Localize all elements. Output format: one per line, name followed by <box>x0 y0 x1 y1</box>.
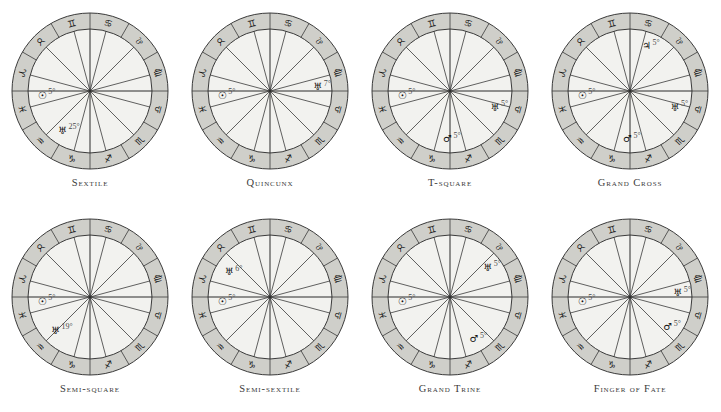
planet-degree-label: 5° <box>48 87 55 96</box>
zodiac-wheel: ♓♈♉♊♋♌♍♎♏♐♑♒☉5°♅5°♂5° <box>367 6 533 176</box>
planet-glyph-uranus: ♅ <box>673 287 682 298</box>
planet-degree-label: 5° <box>228 293 235 302</box>
planet-glyph-mars: ♂ <box>623 133 632 144</box>
aspect-chart-grand-trine: ♓♈♉♊♋♌♍♎♏♐♑♒☉5°♅5°♂5°Grand Trine <box>360 206 540 412</box>
planet-glyph-sun: ☉ <box>398 90 407 101</box>
planet-degree-label: 5° <box>588 293 595 302</box>
zodiac-wheel: ♓♈♉♊♋♌♍♎♏♐♑♒☉5°♅19° <box>7 212 173 382</box>
planet-degree-label: 5° <box>674 319 681 328</box>
aspect-chart-t-square: ♓♈♉♊♋♌♍♎♏♐♑♒☉5°♅5°♂5°T-square <box>360 0 540 206</box>
planet-degree-label: 5° <box>228 87 235 96</box>
planet-degree-label: 5° <box>453 131 460 140</box>
planet-glyph-uranus: ♅ <box>58 125 67 136</box>
zodiac-wheel: ♓♈♉♊♋♌♍♎♏♐♑♒☉5°♅5°♂5° <box>547 212 713 382</box>
planet-glyph-uranus: ♅ <box>483 262 492 273</box>
zodiac-wheel: ♓♈♉♊♋♌♍♎♏♐♑♒☉5°♅5°♂5° <box>367 212 533 382</box>
planet-glyph-mars: ♂ <box>470 333 479 344</box>
planet-glyph-uranus: ♅ <box>51 325 60 336</box>
chart-caption: Semi-sextile <box>239 383 300 394</box>
chart-caption: Finger of Fate <box>594 383 667 394</box>
planet-degree-label: 5° <box>408 293 415 302</box>
chart-caption: Grand Trine <box>419 383 482 394</box>
planet-degree-label: 5° <box>652 38 659 47</box>
zodiac-wheel: ♓♈♉♊♋♌♍♎♏♐♑♒☉5°♅7° <box>187 6 353 176</box>
planet-glyph-sun: ☉ <box>38 296 47 307</box>
planet-degree-label: 5° <box>494 259 501 268</box>
aspect-chart-sextile: ♓♈♉♊♋♌♍♎♏♐♑♒☉5°♅25°Sextile <box>0 0 180 206</box>
planet-degree-label: 5° <box>681 99 688 108</box>
planet-degree-label: 19° <box>61 322 72 331</box>
planet-degree-label: 5° <box>633 131 640 140</box>
aspect-chart-semi-square: ♓♈♉♊♋♌♍♎♏♐♑♒☉5°♅19°Semi-square <box>0 206 180 412</box>
planet-glyph-uranus: ♅ <box>491 102 500 113</box>
chart-caption: Sextile <box>72 177 109 188</box>
planet-degree-label: 5° <box>480 331 487 340</box>
zodiac-wheel: ♓♈♉♊♋♌♍♎♏♐♑♒☉5°♅6° <box>187 212 353 382</box>
planet-glyph-sun: ☉ <box>578 296 587 307</box>
planet-glyph-uranus: ♅ <box>313 81 322 92</box>
planet-glyph-mars: ♂ <box>663 321 672 332</box>
planet-glyph-sun: ☉ <box>218 90 227 101</box>
zodiac-wheel: ♓♈♉♊♋♌♍♎♏♐♑♒☉5°♅25° <box>7 6 173 176</box>
planet-degree-label: 5° <box>408 87 415 96</box>
aspect-chart-grand-cross: ♓♈♉♊♋♌♍♎♏♐♑♒☉5°♅5°♂5°♃5°Grand Cross <box>540 0 720 206</box>
planet-degree-label: 5° <box>588 87 595 96</box>
aspect-chart-grid: ♓♈♉♊♋♌♍♎♏♐♑♒☉5°♅25°Sextile♓♈♉♊♋♌♍♎♏♐♑♒☉5… <box>0 0 721 412</box>
planet-glyph-sun: ☉ <box>578 90 587 101</box>
chart-caption: T-square <box>428 177 472 188</box>
zodiac-wheel: ♓♈♉♊♋♌♍♎♏♐♑♒☉5°♅5°♂5°♃5° <box>547 6 713 176</box>
chart-caption: Grand Cross <box>598 177 662 188</box>
planet-glyph-sun: ☉ <box>398 296 407 307</box>
chart-caption: Quincunx <box>246 177 293 188</box>
planet-glyph-uranus: ♅ <box>225 266 234 277</box>
aspect-chart-semi-sextile: ♓♈♉♊♋♌♍♎♏♐♑♒☉5°♅6°Semi-sextile <box>180 206 360 412</box>
planet-glyph-sun: ☉ <box>38 90 47 101</box>
planet-glyph-sun: ☉ <box>218 296 227 307</box>
planet-glyph-mars: ♂ <box>443 133 452 144</box>
planet-glyph-jupiter: ♃ <box>642 40 651 51</box>
planet-degree-label: 25° <box>68 122 79 131</box>
planet-degree-label: 7° <box>324 79 331 88</box>
planet-degree-label: 5° <box>48 293 55 302</box>
planet-glyph-uranus: ♅ <box>671 102 680 113</box>
planet-degree-label: 5° <box>684 285 691 294</box>
aspect-chart-finger-of-fate: ♓♈♉♊♋♌♍♎♏♐♑♒☉5°♅5°♂5°Finger of Fate <box>540 206 720 412</box>
planet-degree-label: 6° <box>235 264 242 273</box>
aspect-chart-quincunx: ♓♈♉♊♋♌♍♎♏♐♑♒☉5°♅7°Quincunx <box>180 0 360 206</box>
chart-caption: Semi-square <box>60 383 120 394</box>
planet-degree-label: 5° <box>501 99 508 108</box>
